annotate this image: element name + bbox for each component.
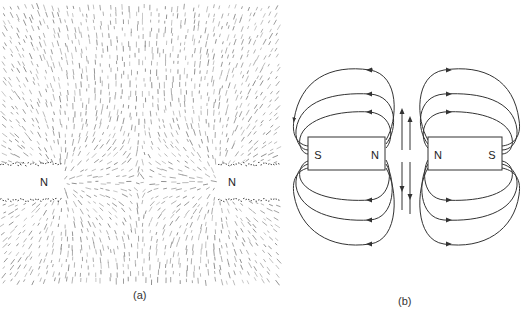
- left-magnet-s-label: S: [314, 149, 321, 161]
- panel-a-caption: (a): [133, 289, 146, 301]
- panel-a-right-pole-label: N: [228, 176, 236, 188]
- figure: N N: [0, 0, 526, 316]
- panel-a-left-pole-label: N: [40, 176, 48, 188]
- panel-b-caption: (b): [398, 295, 411, 307]
- right-magnet-s-label: S: [488, 149, 495, 161]
- left-magnet-pole-block: [0, 164, 62, 200]
- right-magnet-n-label: N: [434, 149, 442, 161]
- left-magnet-n-label: N: [371, 149, 379, 161]
- panel-a-filings: [0, 4, 281, 286]
